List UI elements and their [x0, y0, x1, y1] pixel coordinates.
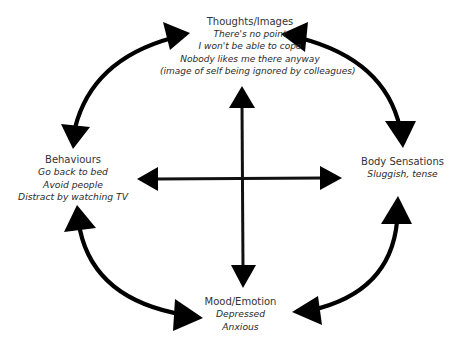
node-title: Body Sensations: [345, 155, 460, 168]
node-line: There's no point: [160, 28, 340, 40]
arrowhead-up-icon: [381, 196, 412, 224]
node-line: Go back to bed: [8, 166, 138, 179]
node-line: Distract by watching TV: [8, 191, 138, 204]
five-areas-diagram: Thoughts/Images There's no point I won't…: [0, 0, 467, 349]
arrow-behaviours-body: [137, 166, 342, 191]
node-thoughts-images: Thoughts/Images There's no point I won't…: [160, 15, 340, 78]
arrow-body-mood: [292, 196, 412, 325]
node-body-sensations: Body Sensations Sluggish, tense: [345, 155, 460, 181]
node-line: Nobody likes me there anyway: [160, 53, 340, 65]
node-line: Sluggish, tense: [345, 168, 460, 181]
node-title: Behaviours: [8, 153, 138, 166]
node-mood-emotion: Mood/Emotion Depressed Anxious: [178, 295, 303, 333]
arrowhead-left-icon: [137, 167, 158, 191]
arrowhead-down-icon: [385, 121, 416, 148]
arrowhead-down-icon: [61, 124, 90, 149]
arrow-thoughts-mood: [229, 86, 256, 288]
node-line: Avoid people: [8, 179, 138, 192]
node-title: Mood/Emotion: [178, 295, 303, 308]
node-line: (image of self being ignored by colleagu…: [160, 65, 340, 77]
arrowhead-up-icon: [229, 86, 255, 108]
node-line: Anxious: [178, 321, 303, 334]
arrowhead-right-icon: [320, 166, 342, 190]
arrowhead-up-icon: [64, 205, 96, 232]
node-behaviours: Behaviours Go back to bed Avoid people D…: [8, 153, 138, 204]
node-title: Thoughts/Images: [160, 15, 340, 28]
arrowhead-down-icon: [231, 265, 256, 288]
node-line: I won't be able to cope: [160, 40, 340, 52]
node-line: Depressed: [178, 308, 303, 321]
